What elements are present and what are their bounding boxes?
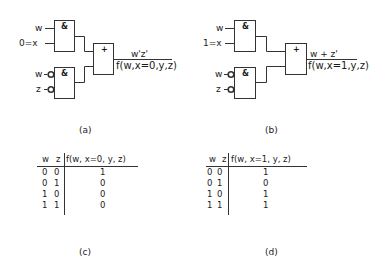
- table-header-f: f(w, x=1, y, z): [231, 154, 291, 165]
- table-cell: 1: [42, 189, 47, 200]
- input-label-z-inverted: z: [36, 84, 41, 94]
- table-header-f: f(w, x=0, y, z): [66, 154, 126, 165]
- input-label-x: 1=x: [203, 38, 222, 48]
- table-header-z: z: [222, 154, 226, 165]
- input-label-w: w: [35, 23, 42, 33]
- table-cell: 1: [54, 200, 59, 211]
- table-cell: 0: [54, 167, 59, 178]
- inverter-bubble-icon: [228, 87, 234, 93]
- table-cell: 0: [207, 167, 212, 178]
- output-function-label: f(w,x=1,y,z): [308, 61, 369, 71]
- output-expression: w + z': [310, 49, 338, 59]
- caption-c: (c): [79, 247, 91, 257]
- input-label-x: 0=x: [19, 38, 38, 48]
- table-cell: 1: [100, 167, 105, 178]
- table-cell: 1: [207, 200, 212, 211]
- inverter-bubble-icon: [228, 72, 234, 78]
- inverter-bubble-icon: [48, 87, 54, 93]
- or-symbol: +: [101, 45, 108, 54]
- table-cell: 1: [217, 200, 222, 211]
- table-cell: 0: [100, 178, 105, 189]
- table-cell: 1: [263, 200, 268, 211]
- caption-d: (d): [265, 247, 278, 257]
- table-header-w: w: [209, 154, 216, 165]
- caption-a: (a): [79, 125, 92, 135]
- table-cell: 1: [207, 189, 212, 200]
- output-expression: w'z': [131, 49, 148, 59]
- inverter-bubble-icon: [48, 72, 54, 78]
- table-cell: 1: [217, 178, 222, 189]
- table-cell: 0: [42, 167, 47, 178]
- table-cell: 0: [263, 178, 268, 189]
- and-symbol: &: [61, 69, 68, 78]
- input-label-w-inverted: w: [215, 69, 222, 79]
- input-label-w-inverted: w: [35, 69, 42, 79]
- or-symbol: +: [293, 45, 300, 54]
- table-cell: 0: [217, 167, 222, 178]
- truth-table-d: w z f(w, x=1, y, z) 0 0 1 0 1 0 1 0 1 1 …: [206, 154, 311, 224]
- table-cell: 0: [207, 178, 212, 189]
- table-header-w: w: [42, 154, 49, 165]
- caption-b: (b): [265, 125, 278, 135]
- table-header-z: z: [56, 154, 60, 165]
- input-label-z-inverted: z: [216, 84, 221, 94]
- table-cell: 0: [217, 189, 222, 200]
- and-symbol: &: [61, 22, 68, 31]
- input-label-w: w: [216, 23, 223, 33]
- and-symbol: &: [242, 22, 249, 31]
- table-cell: 0: [100, 189, 105, 200]
- output-function-label: f(w,x=0,y,z): [116, 61, 177, 71]
- table-cell: 0: [100, 200, 105, 211]
- and-symbol: &: [242, 69, 249, 78]
- table-cell: 1: [42, 200, 47, 211]
- truth-table-c: w z f(w, x=0, y, z) 0 0 1 0 1 0 1 0 0 1 …: [37, 154, 142, 224]
- table-cell: 1: [54, 178, 59, 189]
- table-cell: 1: [263, 167, 268, 178]
- table-cell: 1: [263, 189, 268, 200]
- table-cell: 0: [42, 178, 47, 189]
- table-cell: 0: [54, 189, 59, 200]
